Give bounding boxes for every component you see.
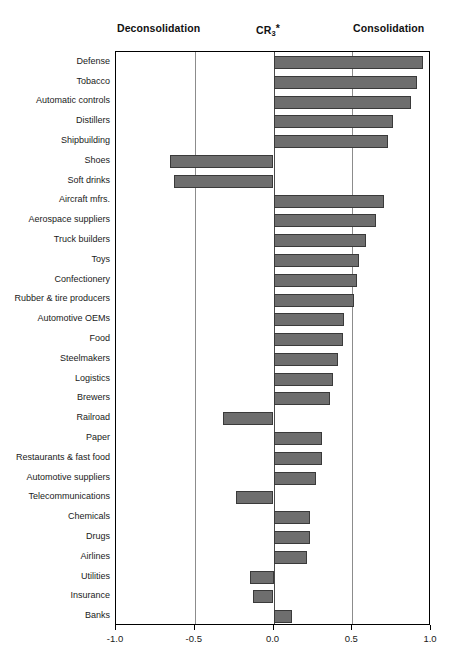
category-label: Shipbuilding bbox=[0, 135, 110, 145]
category-label: Steelmakers bbox=[0, 353, 110, 363]
header-label-deconsolidation: Deconsolidation bbox=[117, 22, 200, 34]
category-label: Logistics bbox=[0, 373, 110, 383]
bar-row bbox=[116, 131, 429, 152]
category-label: Airlines bbox=[0, 551, 110, 561]
category-label: Shoes bbox=[0, 155, 110, 165]
bar-row bbox=[116, 369, 429, 390]
bar-row bbox=[116, 349, 429, 370]
bar-row bbox=[116, 507, 429, 528]
bar-row bbox=[116, 52, 429, 73]
bar bbox=[223, 412, 273, 425]
category-label: Rubber & tire producers bbox=[0, 293, 110, 303]
bar-row bbox=[116, 210, 429, 231]
bar bbox=[274, 96, 411, 109]
bar bbox=[274, 76, 417, 89]
bar bbox=[274, 195, 384, 208]
x-tick-mark bbox=[115, 625, 116, 630]
bar-row bbox=[116, 72, 429, 93]
category-label: Aircraft mfrs. bbox=[0, 194, 110, 204]
x-tick-mark bbox=[273, 625, 274, 630]
bar-row bbox=[116, 468, 429, 489]
bar-row bbox=[116, 487, 429, 508]
bar bbox=[274, 373, 334, 386]
bar-row bbox=[116, 111, 429, 132]
bar-row bbox=[116, 408, 429, 429]
bar bbox=[274, 254, 359, 267]
bar-row bbox=[116, 290, 429, 311]
bar-row bbox=[116, 171, 429, 192]
bar bbox=[274, 294, 354, 307]
x-tick-mark bbox=[351, 625, 352, 630]
category-label: Drugs bbox=[0, 531, 110, 541]
category-label: Confectionery bbox=[0, 274, 110, 284]
bar-row bbox=[116, 230, 429, 251]
bar bbox=[274, 531, 310, 544]
category-label: Automotive suppliers bbox=[0, 472, 110, 482]
category-label: Insurance bbox=[0, 590, 110, 600]
bar-row bbox=[116, 388, 429, 409]
plot-area bbox=[115, 51, 430, 625]
bar bbox=[274, 274, 357, 287]
category-label: Toys bbox=[0, 254, 110, 264]
x-tick-label: 0.5 bbox=[345, 633, 358, 644]
bar bbox=[274, 353, 339, 366]
category-label: Automatic controls bbox=[0, 95, 110, 105]
bar bbox=[274, 135, 389, 148]
bar bbox=[236, 491, 274, 504]
category-label: Banks bbox=[0, 610, 110, 620]
bar bbox=[274, 234, 367, 247]
bar-row bbox=[116, 309, 429, 330]
chart-title-base: CR bbox=[256, 24, 271, 36]
bar bbox=[274, 432, 323, 445]
x-tick-label: 0.0 bbox=[266, 633, 279, 644]
category-label: Utilities bbox=[0, 571, 110, 581]
bar-row bbox=[116, 92, 429, 113]
bar-row bbox=[116, 547, 429, 568]
bar-row bbox=[116, 428, 429, 449]
bar-row bbox=[116, 191, 429, 212]
chart-title: CR3* bbox=[256, 22, 280, 38]
bar bbox=[250, 571, 274, 584]
category-label: Truck builders bbox=[0, 234, 110, 244]
x-tick-mark bbox=[194, 625, 195, 630]
bar bbox=[274, 56, 424, 69]
bar-row bbox=[116, 567, 429, 588]
bar bbox=[274, 115, 394, 128]
x-tick-label: 1.0 bbox=[423, 633, 436, 644]
category-label: Brewers bbox=[0, 392, 110, 402]
bar bbox=[274, 511, 310, 524]
x-tick-label: -0.5 bbox=[186, 633, 202, 644]
bar bbox=[170, 155, 274, 168]
category-label: Telecommunications bbox=[0, 491, 110, 501]
bar-row bbox=[116, 448, 429, 469]
bar-row bbox=[116, 527, 429, 548]
bar bbox=[174, 175, 273, 188]
category-label: Railroad bbox=[0, 412, 110, 422]
bar bbox=[274, 452, 323, 465]
bar bbox=[274, 214, 376, 227]
chart-header: Deconsolidation CR3* Consolidation bbox=[0, 22, 458, 42]
bar-row bbox=[116, 250, 429, 271]
bar bbox=[274, 472, 317, 485]
bar bbox=[253, 590, 273, 603]
category-label: Soft drinks bbox=[0, 175, 110, 185]
category-label: Chemicals bbox=[0, 511, 110, 521]
bar bbox=[274, 551, 307, 564]
category-label: Automotive OEMs bbox=[0, 313, 110, 323]
bar-row bbox=[116, 329, 429, 350]
header-label-consolidation: Consolidation bbox=[353, 22, 424, 34]
bar-row bbox=[116, 270, 429, 291]
bar bbox=[274, 392, 331, 405]
category-label: Tobacco bbox=[0, 76, 110, 86]
category-label: Food bbox=[0, 333, 110, 343]
bar bbox=[274, 610, 293, 623]
category-label: Restaurants & fast food bbox=[0, 452, 110, 462]
x-axis: -1.0-0.50.00.51.0 bbox=[115, 625, 430, 655]
x-tick-mark bbox=[430, 625, 431, 630]
category-axis-labels: DefenseTobaccoAutomatic controlsDistille… bbox=[0, 51, 110, 625]
bar bbox=[274, 313, 345, 326]
category-label: Paper bbox=[0, 432, 110, 442]
x-tick-label: -1.0 bbox=[107, 633, 123, 644]
category-label: Distillers bbox=[0, 115, 110, 125]
bar-row bbox=[116, 151, 429, 172]
